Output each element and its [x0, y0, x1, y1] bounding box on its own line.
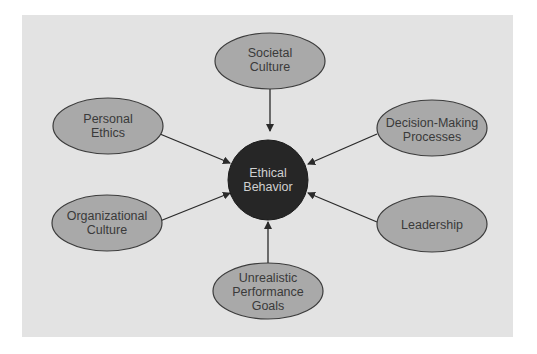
node-label-line3: Goals: [252, 299, 285, 313]
node-label-line2: Processes: [403, 130, 461, 144]
node-decision-making-processes: Decision-Making Processes: [377, 100, 487, 156]
node-societal-culture: Societal Culture: [215, 33, 325, 89]
node-leadership: Leadership: [377, 196, 487, 252]
node-personal-ethics: Personal Ethics: [53, 98, 163, 154]
influences-diagram: Societal Culture Personal Ethics Decisio…: [0, 0, 537, 354]
node-label-line2: Ethics: [91, 126, 125, 140]
center-label-line1: Ethical: [249, 166, 287, 180]
arrow-leadership-to-center: [308, 193, 377, 222]
node-unrealistic-performance-goals: Unrealistic Performance Goals: [213, 263, 323, 319]
node-label-line1: Decision-Making: [386, 116, 478, 130]
node-label-line2: Culture: [250, 60, 290, 74]
node-label-line1: Leadership: [401, 218, 463, 232]
center-label-line2: Behavior: [243, 180, 292, 194]
node-ethical-behavior-center: Ethical Behavior: [228, 140, 308, 220]
node-organizational-culture: Organizational Culture: [52, 195, 162, 251]
arrow-personal-to-center: [160, 134, 230, 163]
node-label-line2: Performance: [232, 285, 304, 299]
node-label-line2: Culture: [87, 223, 127, 237]
node-label-line1: Societal: [248, 46, 292, 60]
node-label-line1: Personal: [83, 112, 132, 126]
arrow-organizational-to-center: [160, 193, 230, 221]
node-label-line1: Organizational: [67, 209, 148, 223]
arrow-decision-to-center: [308, 134, 377, 164]
node-label-line1: Unrealistic: [239, 271, 297, 285]
